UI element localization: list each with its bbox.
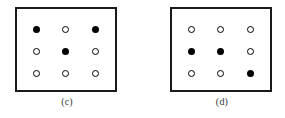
open-circle-icon (92, 70, 99, 77)
dot-cell (206, 18, 235, 40)
panel-c-dot-grid (15, 7, 117, 92)
open-circle-icon (247, 26, 254, 33)
dot-cell (236, 18, 265, 40)
open-circle-icon (217, 70, 224, 77)
dot-cell (177, 62, 206, 84)
filled-circle-icon (92, 26, 99, 33)
filled-circle-icon (33, 26, 40, 33)
filled-circle-icon (247, 70, 254, 77)
dot-cell (206, 40, 235, 62)
panel-d-caption: (d) (157, 95, 285, 109)
dot-cell (22, 62, 51, 84)
dot-cell (81, 62, 110, 84)
panel-c: (c) (2, 0, 132, 118)
open-circle-icon (217, 26, 224, 33)
dot-cell (177, 18, 206, 40)
dot-cell (51, 62, 80, 84)
panel-c-caption: (c) (2, 95, 132, 109)
panel-d: (d) (157, 0, 285, 118)
panel-d-dot-grid (170, 7, 272, 92)
figure-root: (c) (d) (0, 0, 285, 118)
dot-cell (51, 40, 80, 62)
open-circle-icon (62, 70, 69, 77)
dot-cell (206, 62, 235, 84)
open-circle-icon (188, 70, 195, 77)
open-circle-icon (33, 48, 40, 55)
filled-circle-icon (62, 48, 69, 55)
filled-circle-icon (188, 48, 195, 55)
open-circle-icon (33, 70, 40, 77)
dot-cell (22, 18, 51, 40)
dot-cell (236, 62, 265, 84)
open-circle-icon (247, 48, 254, 55)
dot-cell (22, 40, 51, 62)
dot-cell (236, 40, 265, 62)
filled-circle-icon (217, 48, 224, 55)
dot-cell (81, 40, 110, 62)
dot-cell (177, 40, 206, 62)
dot-cell (81, 18, 110, 40)
open-circle-icon (62, 26, 69, 33)
open-circle-icon (92, 48, 99, 55)
dot-cell (51, 18, 80, 40)
open-circle-icon (188, 26, 195, 33)
